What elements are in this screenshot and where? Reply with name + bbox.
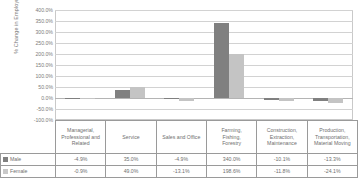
- table-column-header: Farming, Fishing, Forestry: [206, 121, 256, 154]
- y-tick-label: 300.0%: [7, 29, 53, 35]
- table-cell-value: -4.9%: [56, 154, 106, 166]
- bar-male: [214, 23, 229, 98]
- legend-label: Male: [10, 156, 21, 162]
- y-tick-label: 0.0%: [7, 95, 53, 101]
- table-column-header: Sales and Office: [156, 121, 206, 154]
- bar-male: [65, 98, 80, 99]
- gridline: [55, 109, 353, 110]
- y-tick-label: 100.0%: [7, 73, 53, 79]
- bar-male: [115, 90, 130, 98]
- legend-swatch-icon: [3, 157, 8, 162]
- gridline: [55, 32, 353, 33]
- table-column-header: Production, Transportation, Material Mov…: [307, 121, 357, 154]
- gridline: [55, 43, 353, 44]
- bar-female: [80, 98, 95, 99]
- table-cell-value: 35.0%: [106, 154, 156, 166]
- data-table: Managerial, Professional and RelatedServ…: [0, 120, 358, 178]
- legend-label: Female: [10, 168, 27, 174]
- table-cell-value: 198.6%: [206, 166, 256, 178]
- y-tick-label: 350.0%: [7, 18, 53, 24]
- gridline: [55, 76, 353, 77]
- y-tick-label: 400.0%: [7, 7, 53, 13]
- y-tick-label: 150.0%: [7, 62, 53, 68]
- gridline: [55, 65, 353, 66]
- table-cell-value: -11.8%: [257, 166, 307, 178]
- legend-swatch-icon: [3, 169, 8, 174]
- table-cell-value: -24.1%: [307, 166, 357, 178]
- bar-female: [279, 98, 294, 101]
- y-tick-label: -50.0%: [7, 106, 53, 112]
- bar-female: [179, 98, 194, 101]
- y-tick-label: 50.0%: [7, 84, 53, 90]
- gridline: [55, 10, 353, 11]
- bar-female: [229, 54, 244, 98]
- gridline: [55, 54, 353, 55]
- table-column-header: Managerial, Professional and Related: [56, 121, 106, 154]
- gridline: [55, 21, 353, 22]
- bar-female: [130, 87, 145, 98]
- legend-item-female[interactable]: Female: [1, 166, 56, 178]
- gridline: [55, 98, 353, 99]
- table-corner-cell: [1, 121, 56, 154]
- table-cell-value: -13.1%: [156, 166, 206, 178]
- table-column-header: Service: [106, 121, 156, 154]
- table-cell-value: -13.3%: [307, 154, 357, 166]
- legend-item-male[interactable]: Male: [1, 154, 56, 166]
- gridline: [55, 87, 353, 88]
- bar-male: [164, 98, 179, 99]
- table-row: Female-0.9%49.0%-13.1%198.6%-11.8%-24.1%: [1, 166, 358, 178]
- bar-female: [328, 98, 343, 103]
- table-cell-value: 340.0%: [206, 154, 256, 166]
- table-cell-value: -10.1%: [257, 154, 307, 166]
- bar-male: [264, 98, 279, 100]
- table-cell-value: -4.9%: [156, 154, 206, 166]
- plot-area: [55, 10, 353, 120]
- table-row: Male-4.9%35.0%-4.9%340.0%-10.1%-13.3%: [1, 154, 358, 166]
- table-header-row: Managerial, Professional and RelatedServ…: [1, 121, 358, 154]
- table-cell-value: -0.9%: [56, 166, 106, 178]
- table-cell-value: 49.0%: [106, 166, 156, 178]
- bar-male: [313, 98, 328, 101]
- y-tick-label: 200.0%: [7, 51, 53, 57]
- employment-change-chart: % Change in Employment 400.0%350.0%300.0…: [0, 0, 358, 195]
- table-column-header: Construction, Extraction, Maintenance: [257, 121, 307, 154]
- y-tick-label: 250.0%: [7, 40, 53, 46]
